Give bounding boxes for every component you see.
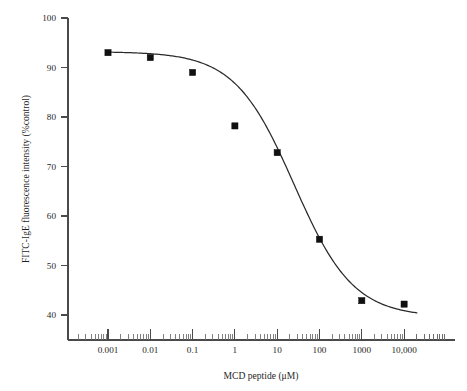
y-tick-label: 50 (47, 261, 57, 271)
y-tick-label: 100 (42, 13, 56, 23)
x-tick-label: 100 (313, 345, 327, 355)
data-point (359, 298, 365, 304)
y-tick-label: 40 (47, 310, 57, 320)
x-axis-title: MCD peptide (μM) (224, 370, 299, 382)
data-point (401, 301, 407, 307)
x-tick-label: 1 (233, 345, 238, 355)
x-tick-label: 0.01 (142, 345, 158, 355)
y-axis-title: FITC-IgE fluorescence intensity (%contro… (20, 95, 32, 263)
chart-figure: 405060708090100 0.0010.010.1110100100010… (0, 0, 467, 391)
data-point (274, 150, 280, 156)
x-tick-label: 1000 (353, 345, 372, 355)
x-tick-label: 10 (273, 345, 283, 355)
plot-background (0, 0, 467, 391)
data-point (147, 55, 153, 61)
x-tick-label: 10,000 (391, 345, 417, 355)
data-point (316, 236, 322, 242)
x-tick-label: 0.001 (98, 345, 119, 355)
dose-response-plot: 405060708090100 0.0010.010.1110100100010… (0, 0, 467, 391)
x-tick-label: 0.1 (187, 345, 199, 355)
y-tick-label: 90 (47, 63, 57, 73)
y-tick-label: 80 (47, 112, 57, 122)
data-point (190, 69, 196, 75)
y-tick-label: 60 (47, 211, 57, 221)
y-tick-label: 70 (47, 162, 57, 172)
data-point (105, 50, 111, 56)
data-point (232, 123, 238, 129)
